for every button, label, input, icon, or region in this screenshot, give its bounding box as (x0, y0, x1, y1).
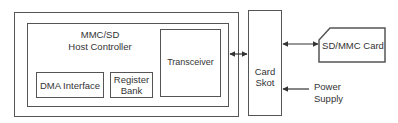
power-supply-line1: Power (314, 81, 341, 92)
sd-mmc-card-label: SD/MMC Card (320, 40, 386, 51)
power-supply-line2: Supply (314, 93, 343, 104)
connections-layer (0, 0, 398, 123)
